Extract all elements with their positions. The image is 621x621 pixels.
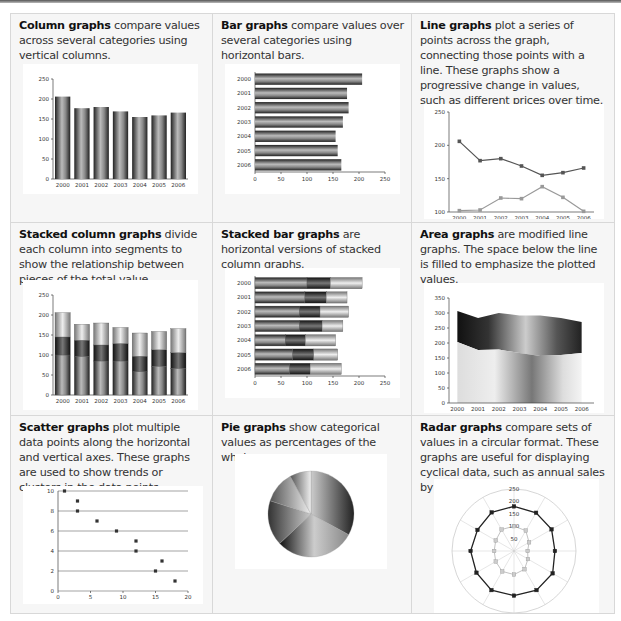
- svg-text:2003: 2003: [237, 323, 251, 329]
- svg-text:50: 50: [42, 372, 49, 378]
- title-bar-graphs: Bar graphs: [221, 19, 288, 32]
- svg-text:250: 250: [380, 380, 391, 386]
- svg-text:0: 0: [253, 176, 257, 182]
- radar-chart: 50100150200250: [434, 479, 599, 613]
- svg-text:2006: 2006: [171, 398, 185, 404]
- svg-text:200: 200: [39, 96, 50, 102]
- description-area-graphs: Area graphs are modified line graphs. Th…: [420, 227, 608, 287]
- svg-text:2001: 2001: [75, 182, 89, 188]
- svg-text:6: 6: [51, 528, 55, 534]
- svg-text:0: 0: [51, 588, 55, 594]
- svg-text:20: 20: [185, 594, 192, 600]
- svg-text:2004: 2004: [533, 406, 547, 412]
- svg-text:0: 0: [442, 400, 446, 406]
- svg-text:2002: 2002: [94, 398, 108, 404]
- description-column-graphs: Column graphs compare values across seve…: [19, 18, 206, 63]
- svg-text:10: 10: [120, 594, 127, 600]
- svg-text:2005: 2005: [237, 148, 251, 154]
- svg-text:2003: 2003: [114, 398, 128, 404]
- stacked-column-chart: 0501001502002502000200120022003200420052…: [23, 280, 198, 410]
- description-bar-graphs: Bar graphs compare values over several c…: [221, 18, 405, 63]
- cell-radar-graphs: Radar graphs compare sets of values in a…: [412, 416, 614, 613]
- svg-text:2003: 2003: [114, 182, 128, 188]
- svg-text:100: 100: [302, 380, 313, 386]
- cell-line-graphs: Line graphs plot a series of points acro…: [412, 14, 614, 223]
- title-radar-graphs: Radar graphs: [420, 421, 502, 434]
- text-line-graphs: plot a series of points across the graph…: [420, 19, 603, 107]
- svg-text:100: 100: [435, 370, 446, 376]
- svg-text:200: 200: [435, 340, 446, 346]
- svg-text:2005: 2005: [554, 406, 568, 412]
- cell-stacked-column-graphs: Stacked column graphs divide each column…: [11, 223, 213, 416]
- svg-text:2004: 2004: [237, 133, 251, 139]
- graph-types-grid: Column graphs compare values across seve…: [10, 13, 615, 614]
- title-stacked-column-graphs: Stacked column graphs: [19, 228, 161, 241]
- svg-text:250: 250: [509, 486, 520, 492]
- svg-text:2000: 2000: [450, 406, 464, 412]
- svg-text:0: 0: [56, 594, 60, 600]
- svg-text:200: 200: [354, 176, 365, 182]
- svg-text:200: 200: [39, 312, 50, 318]
- svg-text:200: 200: [354, 380, 365, 386]
- svg-text:4: 4: [51, 548, 55, 554]
- title-stacked-bar-graphs: Stacked bar graphs: [221, 228, 339, 241]
- svg-text:250: 250: [39, 76, 50, 82]
- svg-text:250: 250: [435, 325, 446, 331]
- svg-text:10: 10: [47, 488, 54, 494]
- svg-text:50: 50: [278, 380, 285, 386]
- svg-text:150: 150: [435, 176, 446, 182]
- svg-text:2004: 2004: [237, 337, 251, 343]
- svg-text:150: 150: [509, 511, 520, 517]
- area-chart: 0501001502002503003502000200120022003200…: [424, 283, 604, 413]
- top-border: [0, 0, 621, 3]
- svg-text:15: 15: [152, 594, 159, 600]
- svg-text:2002: 2002: [94, 182, 108, 188]
- svg-text:2004: 2004: [133, 398, 147, 404]
- svg-text:2003: 2003: [515, 215, 529, 219]
- svg-text:300: 300: [435, 310, 446, 316]
- svg-text:200: 200: [435, 142, 446, 148]
- svg-text:0: 0: [253, 380, 257, 386]
- svg-text:150: 150: [39, 332, 50, 338]
- svg-text:2006: 2006: [237, 162, 251, 168]
- title-area-graphs: Area graphs: [420, 228, 494, 241]
- bar-chart: 0501001502002502000200120022003200420052…: [225, 64, 400, 194]
- svg-text:350: 350: [435, 295, 446, 301]
- svg-text:2001: 2001: [473, 215, 487, 219]
- svg-text:2000: 2000: [237, 76, 251, 82]
- svg-text:8: 8: [51, 508, 55, 514]
- column-chart: 0501001502002502000200120022003200420052…: [23, 64, 198, 194]
- svg-text:2002: 2002: [494, 215, 508, 219]
- svg-text:2003: 2003: [513, 406, 527, 412]
- svg-text:2001: 2001: [237, 294, 251, 300]
- svg-text:2006: 2006: [577, 215, 591, 219]
- svg-text:2005: 2005: [556, 215, 570, 219]
- svg-text:2001: 2001: [237, 90, 251, 96]
- cell-area-graphs: Area graphs are modified line graphs. Th…: [412, 223, 614, 416]
- svg-text:250: 250: [380, 176, 391, 182]
- svg-text:100: 100: [435, 209, 446, 215]
- svg-text:150: 150: [39, 116, 50, 122]
- svg-text:150: 150: [435, 355, 446, 361]
- svg-text:5: 5: [89, 594, 93, 600]
- svg-text:50: 50: [438, 385, 445, 391]
- cell-scatter-graphs: Scatter graphs plot multiple data points…: [11, 416, 213, 613]
- svg-text:50: 50: [42, 156, 49, 162]
- svg-text:2006: 2006: [575, 406, 589, 412]
- svg-text:2000: 2000: [237, 280, 251, 286]
- svg-text:2002: 2002: [237, 309, 251, 315]
- cell-pie-graphs: Pie graphs show categorical values as pe…: [213, 416, 412, 613]
- svg-text:0: 0: [46, 392, 50, 398]
- svg-text:2004: 2004: [133, 182, 147, 188]
- svg-text:2000: 2000: [452, 215, 466, 219]
- svg-text:250: 250: [39, 292, 50, 298]
- svg-text:2001: 2001: [471, 406, 485, 412]
- svg-text:2005: 2005: [237, 352, 251, 358]
- title-line-graphs: Line graphs: [420, 19, 491, 32]
- cell-bar-graphs: Bar graphs compare values over several c…: [213, 14, 412, 223]
- svg-text:200: 200: [509, 498, 520, 504]
- svg-text:2003: 2003: [237, 119, 251, 125]
- stacked-bar-chart: 0501001502002502000200120022003200420052…: [225, 268, 400, 398]
- title-scatter-graphs: Scatter graphs: [19, 421, 109, 434]
- pie-chart: [235, 454, 387, 569]
